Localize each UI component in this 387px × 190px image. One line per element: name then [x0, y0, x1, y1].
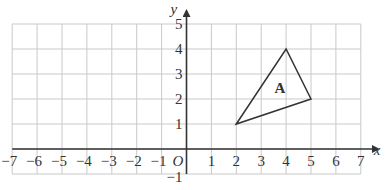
y-tick-label: 4: [175, 41, 183, 57]
coordinate-plane: −7−6−5−4−3−2−11234567 54321−1 x y O A: [0, 0, 387, 190]
y-tick-label: 3: [175, 66, 183, 82]
x-tick-label: 6: [332, 153, 340, 169]
x-tick-label: −7: [1, 153, 17, 169]
y-axis-label: y: [169, 1, 178, 17]
x-tick-label: 4: [282, 153, 290, 169]
x-tick-label: −6: [26, 153, 42, 169]
x-tick-label: 5: [307, 153, 315, 169]
x-tick-label: 2: [233, 153, 241, 169]
y-tick-label: −1: [167, 169, 183, 185]
x-tick-label: 3: [257, 153, 265, 169]
x-tick-label: 7: [357, 153, 365, 169]
x-tick-label: −5: [51, 153, 67, 169]
origin-label: O: [173, 153, 184, 169]
y-tick-label: 2: [175, 91, 183, 107]
x-axis-label: x: [373, 142, 381, 158]
shapes-layer: A: [236, 49, 311, 124]
shape-label: A: [274, 80, 285, 96]
y-tick-label: 5: [175, 16, 183, 32]
x-tick-label: −2: [126, 153, 142, 169]
x-tick-label: −4: [76, 153, 92, 169]
x-tick-label: −3: [101, 153, 117, 169]
coordinate-grid-diagram: −7−6−5−4−3−2−11234567 54321−1 x y O A: [0, 0, 387, 190]
x-tick-label: 1: [208, 153, 216, 169]
x-tick-label: −1: [151, 153, 167, 169]
y-tick-label: 1: [175, 116, 183, 132]
